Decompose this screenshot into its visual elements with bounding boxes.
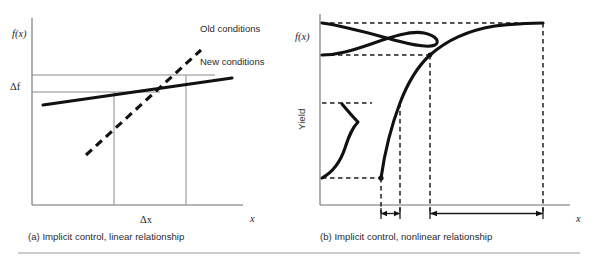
- panel-a-y-axis-label: f(x): [12, 28, 27, 40]
- panel-b-input-range-arrow: [381, 208, 400, 219]
- panel-a-delta-f-label: Δf: [10, 81, 21, 92]
- panel-b-x-axis-label: x: [575, 213, 581, 224]
- panel-a-old-conditions-curve: [86, 50, 201, 155]
- panel-b-output-distribution: [322, 23, 437, 55]
- panel-b-input-distribution: [322, 104, 358, 178]
- figure-root: f(x) Δf Δx x Old conditions New conditio…: [0, 0, 597, 266]
- panel-a-caption: (a) Implicit control, linear relationshi…: [28, 231, 184, 242]
- panel-a-legend-new-conditions: New conditions: [200, 56, 265, 67]
- panel-a-group: f(x) Δf Δx x Old conditions New conditio…: [10, 18, 265, 242]
- panel-a-delta-x-label: Δx: [140, 214, 153, 225]
- panel-b-response-curve: [381, 23, 543, 178]
- panel-b-marker-knee: [428, 53, 433, 58]
- panel-b-output-range-arrow: [430, 208, 543, 219]
- panel-b-yield-label: Yield: [296, 109, 307, 130]
- panel-b-caption: (b) Implicit control, nonlinear relation…: [320, 231, 492, 242]
- panel-b-group: f(x) Yield x (b) Implicit control, nonli…: [295, 14, 581, 242]
- panel-b-y-axis-label: f(x): [295, 31, 310, 43]
- panel-a-legend-old-conditions: Old conditions: [200, 23, 260, 34]
- panel-a-x-axis-label: x: [249, 213, 255, 224]
- panel-b-marker-input-low: [378, 175, 383, 180]
- figure-canvas: f(x) Δf Δx x Old conditions New conditio…: [0, 0, 597, 266]
